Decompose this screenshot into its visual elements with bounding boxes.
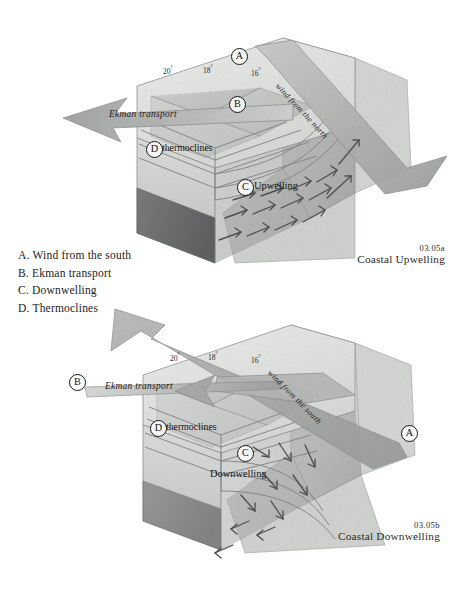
ekman-transport-label-lower: Ekman transport	[105, 381, 173, 391]
ekman-transport-label-upper: Ekman transport	[109, 109, 177, 119]
figure-canvas: A B C D 20° 18° 16° Ekman transport ther…	[0, 0, 460, 591]
thermoclines-label-lower: thermoclines	[166, 421, 217, 432]
isotherm-label-18-lower: 18°	[208, 351, 218, 362]
marker-c-upper[interactable]: C	[237, 179, 254, 196]
isotherm-label-18-upper: 18°	[203, 64, 213, 75]
caption-number-upper: 03.05a	[265, 243, 445, 253]
upwelling-label-upper: Upwelling	[254, 180, 298, 191]
legend-item-a: A. Wind from the south	[18, 247, 168, 265]
caption-text-lower: Coastal Downwelling	[255, 530, 440, 542]
isotherm-label-20-upper: 20°	[163, 65, 173, 76]
isotherm-label-20-lower: 20°	[170, 352, 180, 363]
marker-d-upper[interactable]: D	[146, 141, 163, 158]
panel-coastal-downwelling: A B C D 20° 18° 16° Ekman transport ther…	[55, 295, 455, 580]
isotherm-label-16-upper: 16°	[251, 67, 261, 78]
caption-number-lower: 03.05b	[255, 520, 440, 530]
marker-d-lower[interactable]: D	[150, 420, 167, 437]
caption-upper: 03.05a Coastal Upwelling	[265, 243, 445, 265]
isotherm-label-16-lower: 16°	[251, 354, 261, 365]
marker-b-lower[interactable]: B	[69, 374, 86, 391]
downwelling-label-lower: Downwelling	[210, 468, 267, 479]
legend-item-b: B. Ekman transport	[18, 265, 168, 283]
thermoclines-label-upper: thermoclines	[162, 142, 213, 153]
marker-c-lower[interactable]: C	[237, 445, 254, 462]
caption-text-upper: Coastal Upwelling	[265, 253, 445, 265]
marker-a-upper[interactable]: A	[231, 48, 248, 65]
marker-b-upper[interactable]: B	[229, 96, 246, 113]
caption-lower: 03.05b Coastal Downwelling	[255, 520, 440, 542]
marker-a-lower[interactable]: A	[401, 425, 418, 442]
